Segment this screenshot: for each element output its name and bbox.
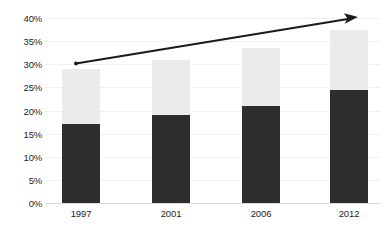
y-axis-tick-label: 15% (8, 128, 42, 139)
y-axis-tick-label: 10% (8, 151, 42, 162)
chart-container: 40%35%30%25%20%15%10%5%0% 19972001200620… (0, 0, 388, 234)
bar-segment-lower-2001 (152, 115, 190, 203)
x-axis-tick-label-2012: 2012 (314, 208, 384, 219)
x-axis-tick-label-2001: 2001 (136, 208, 206, 219)
bar-segment-lower-1997 (62, 124, 100, 203)
gridline-0 (45, 203, 380, 204)
plot-area (45, 18, 380, 203)
y-axis-tick-label: 20% (8, 105, 42, 116)
bar-2001 (152, 60, 190, 203)
bar-segment-lower-2012 (330, 90, 368, 203)
bar-2006 (242, 48, 280, 203)
y-axis-tick-label: 25% (8, 82, 42, 93)
x-axis-tick-label-2006: 2006 (226, 208, 296, 219)
y-axis-tick-label: 40% (8, 13, 42, 24)
bar-segment-upper-2006 (242, 48, 280, 106)
y-axis-tick-label: 5% (8, 174, 42, 185)
bar-2012 (330, 30, 368, 203)
bar-1997 (62, 69, 100, 203)
bar-segment-upper-1997 (62, 69, 100, 125)
y-axis-tick-label: 35% (8, 36, 42, 47)
y-axis-tick-label: 30% (8, 59, 42, 70)
x-axis-tick-label-1997: 1997 (46, 208, 116, 219)
y-axis-tick-label: 0% (8, 198, 42, 209)
bar-segment-upper-2012 (330, 30, 368, 90)
bar-segment-lower-2006 (242, 106, 280, 203)
gridline-40 (45, 18, 380, 19)
bar-segment-upper-2001 (152, 60, 190, 116)
